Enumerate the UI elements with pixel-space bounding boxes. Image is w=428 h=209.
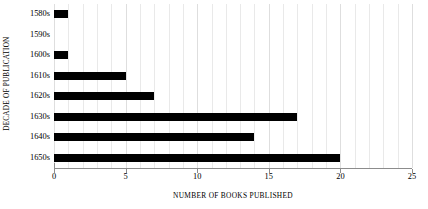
y-axis-tick-label: 1590s — [14, 25, 53, 46]
x-axis-tick-label: 10 — [193, 173, 201, 181]
y-axis-tick-labels: 1580s1590s1600s1610s1620s1630s1640s1650s — [14, 4, 53, 168]
y-axis-tick-label: 1610s — [14, 66, 53, 87]
y-axis-title-text: DECADE OF PUBLICATION — [3, 37, 10, 131]
bar-row — [54, 4, 412, 25]
x-axis-tick-label: 0 — [52, 173, 56, 181]
x-axis-tick-label: 25 — [408, 173, 416, 181]
x-axis-tick-label: 15 — [265, 173, 273, 181]
y-axis-title: DECADE OF PUBLICATION — [0, 0, 14, 168]
bar-row — [54, 148, 412, 169]
bar-row — [54, 107, 412, 128]
bar — [54, 72, 126, 80]
x-axis-tick-label: 5 — [124, 173, 128, 181]
bar — [54, 133, 254, 141]
y-axis-tick-label: 1640s — [14, 127, 53, 148]
bar — [54, 92, 154, 100]
bar-row — [54, 127, 412, 148]
bar-row — [54, 86, 412, 107]
bar-row — [54, 66, 412, 87]
bar-series — [54, 4, 412, 168]
y-axis-tick-label: 1600s — [14, 45, 53, 66]
x-axis-tick-label: 20 — [336, 173, 344, 181]
y-axis-tick-label: 1580s — [14, 4, 53, 25]
y-axis-tick-label: 1630s — [14, 107, 53, 128]
bar — [54, 10, 68, 18]
gridline-major — [412, 4, 413, 168]
bar-row — [54, 25, 412, 46]
y-axis-tick-label: 1650s — [14, 148, 53, 169]
bar — [54, 51, 68, 59]
bar-row — [54, 45, 412, 66]
bar — [54, 154, 340, 162]
x-axis-title: NUMBER OF BOOKS PUBLISHED — [54, 192, 412, 199]
x-axis-tick-labels: 0510152025 — [54, 173, 412, 185]
y-axis-tick-label: 1620s — [14, 86, 53, 107]
bar — [54, 113, 297, 121]
bar-chart: DECADE OF PUBLICATION 1580s1590s1600s161… — [0, 0, 428, 209]
plot-area — [54, 4, 412, 168]
